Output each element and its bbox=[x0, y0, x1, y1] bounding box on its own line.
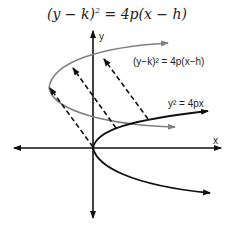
translated-parabola-label: (y−k)² = 4p(x−h) bbox=[133, 56, 204, 67]
translation-dash-1 bbox=[50, 88, 93, 147]
x-axis-label: x bbox=[213, 135, 218, 146]
translated-parabola-lower bbox=[49, 88, 175, 127]
base-parabola-lower bbox=[93, 148, 210, 193]
parabola-translation-diagram: y x (y−k)² = 4p(x−h) y² = 4px bbox=[0, 0, 234, 226]
translation-dash-3 bbox=[104, 59, 148, 119]
base-parabola-label: y² = 4px bbox=[168, 98, 204, 109]
translation-dash-2 bbox=[73, 68, 116, 128]
base-parabola-upper bbox=[93, 111, 208, 148]
y-axis-label: y bbox=[99, 31, 104, 42]
